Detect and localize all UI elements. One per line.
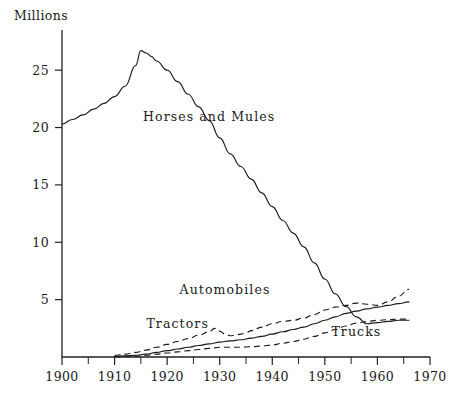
series-lines (62, 51, 409, 357)
axis-lines (62, 30, 430, 357)
series-label-horses-and-mules: Horses and Mules (143, 109, 275, 124)
axes: 5101520251900191019201930194019501960197… (32, 30, 446, 384)
y-axis-tick-label: 25 (32, 63, 49, 78)
y-axis-tick-label: 20 (32, 120, 49, 135)
x-axis-tick-label: 1910 (98, 369, 131, 384)
x-axis-tick-label: 1970 (413, 369, 446, 384)
y-axis-tick-label: 10 (32, 235, 49, 250)
y-axis-tick-label: 5 (41, 292, 49, 307)
series-label-tractors: Tractors (146, 316, 209, 331)
line-chart: 5101520251900191019201930194019501960197… (0, 0, 460, 396)
x-axis-tick-label: 1900 (45, 369, 78, 384)
x-axis-tick-label: 1950 (308, 369, 341, 384)
x-axis-tick-label: 1930 (203, 369, 236, 384)
series-label-automobiles: Automobiles (179, 282, 271, 297)
series-labels: Horses and MulesAutomobilesTractorsTruck… (143, 109, 381, 339)
x-axis-tick-label: 1940 (256, 369, 289, 384)
series-label-trucks: Trucks (331, 324, 381, 339)
chart-container: 5101520251900191019201930194019501960197… (0, 0, 460, 396)
y-axis-title: Millions (14, 8, 68, 23)
x-axis-tick-label: 1960 (361, 369, 394, 384)
y-axis-tick-label: 15 (32, 177, 49, 192)
x-axis-tick-label: 1920 (150, 369, 183, 384)
